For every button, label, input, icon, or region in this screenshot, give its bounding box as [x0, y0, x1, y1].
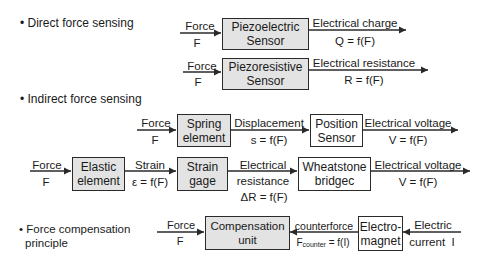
- strain-gage-box: Strain gage: [177, 157, 228, 191]
- box-label-line1: Wheatstone: [302, 160, 366, 174]
- row4-input-label: Force: [32, 159, 61, 172]
- row2-output-label: Electrical resistance: [313, 57, 415, 70]
- section-force-compensation: • Force compensation principle: [19, 222, 130, 250]
- row4-strain-formula: ε = f(F): [132, 176, 168, 189]
- row3-displacement-formula: s = f(F): [251, 134, 288, 147]
- box-label-line2: bridgec: [315, 174, 354, 188]
- box-label-line2: element: [183, 131, 226, 145]
- row5-counterforce-formula: Fcounter = f(I): [296, 236, 349, 251]
- row3-output-formula: V = f(F): [389, 134, 428, 147]
- row4-output-label: Electrical voltage: [375, 159, 462, 172]
- row4-strain-label: Strain: [135, 159, 165, 172]
- row4-resistance-label-line1: Electrical: [240, 159, 287, 172]
- section-force-compensation-line2: principle: [19, 236, 130, 250]
- section-direct-force-sensing: • Direct force sensing: [20, 16, 134, 30]
- row1-output-formula: Q = f(F): [335, 35, 375, 48]
- section-force-compensation-line1: • Force compensation: [19, 222, 130, 236]
- row5-input-symbol: F: [177, 235, 184, 248]
- row1-output-label: Electrical charge: [312, 17, 397, 30]
- box-label-line2: Sensor: [246, 74, 284, 88]
- row5-current-label: current I: [409, 236, 454, 249]
- row5-input-label: Force: [167, 219, 195, 232]
- box-label-line1: Position: [315, 117, 358, 131]
- box-label-line1: Electro-: [360, 220, 401, 234]
- box-label-line1: Strain: [187, 160, 218, 174]
- row2-input-label: Force: [187, 60, 216, 73]
- spring-element-box: Spring element: [177, 114, 231, 147]
- row3-input-label: Force: [141, 117, 170, 130]
- box-label-line2: element: [77, 174, 120, 188]
- row2-input-symbol: F: [194, 76, 201, 89]
- box-label-line2: gage: [189, 174, 216, 188]
- box-label-line1: Spring: [187, 117, 222, 131]
- row4-input-symbol: F: [42, 176, 49, 189]
- section-indirect-force-sensing: • Indirect force sensing: [20, 92, 142, 106]
- wheatstone-bridge-box: Wheatstone bridgec: [298, 157, 371, 191]
- compensation-unit-box: Compensation unit: [205, 216, 290, 250]
- row5-electric-label: Electric: [414, 219, 452, 232]
- row3-input-symbol: F: [151, 134, 158, 147]
- box-label-line1: Compensation: [210, 219, 284, 233]
- elastic-element-box: Elastic element: [72, 157, 125, 191]
- box-label-line1: Piezoresistive: [228, 60, 302, 74]
- formula-subscript: counter: [303, 241, 326, 248]
- piezoresistive-sensor-box: Piezoresistive Sensor: [222, 58, 309, 90]
- formula-rest: = f(I): [326, 237, 350, 248]
- box-label-line2: magnet: [360, 234, 400, 248]
- box-label-line2: Sensor: [246, 34, 284, 48]
- row4-resistance-formula: ΔR = f(F): [241, 191, 288, 204]
- piezoelectric-sensor-box: Piezoelectric Sensor: [222, 18, 309, 50]
- row1-input-symbol: F: [193, 37, 200, 50]
- box-label-line2: unit: [238, 233, 257, 247]
- row1-input-label: Force: [185, 20, 214, 33]
- row4-resistance-label-line2: resistance: [237, 175, 289, 188]
- row3-displacement-label: Displacement: [234, 117, 304, 130]
- row3-output-label: Electrical voltage: [365, 117, 452, 130]
- row5-counterforce-label: counterforce: [295, 220, 353, 233]
- electromagnet-box: Electro- magnet: [358, 216, 403, 251]
- row4-output-formula: V = f(F): [399, 176, 438, 189]
- box-label-line2: Sensor: [317, 131, 355, 145]
- row2-output-formula: R = f(F): [344, 74, 383, 87]
- box-label-line1: Piezoelectric: [231, 20, 299, 34]
- box-label-line1: Elastic: [81, 160, 116, 174]
- position-sensor-box: Position Sensor: [310, 114, 363, 147]
